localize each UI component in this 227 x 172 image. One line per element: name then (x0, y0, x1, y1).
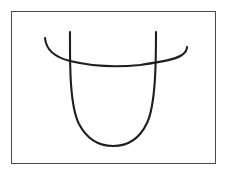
figure-border (12, 12, 216, 164)
figure-canvas (0, 0, 227, 172)
line-drawing-figure (0, 0, 227, 172)
